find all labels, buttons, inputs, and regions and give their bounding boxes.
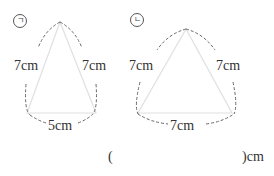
answer-open-paren: ( xyxy=(108,150,113,164)
triangle-1-right-side-label: 7cm xyxy=(82,59,106,73)
triangle-1-left-side-label: 7cm xyxy=(14,59,38,73)
answer-close-paren-unit: )cm xyxy=(242,150,264,164)
triangle-1-base-arc-right xyxy=(78,115,92,123)
triangle-2-base-arc-right xyxy=(206,114,234,124)
triangle-2-base-arc-left xyxy=(138,114,168,124)
triangle-1-base-label: 5cm xyxy=(48,119,72,133)
figure-1-marker: ㄱ xyxy=(13,14,27,28)
triangle-2-left-side-arc xyxy=(157,29,186,50)
triangle-2-right-side-arc xyxy=(186,29,215,50)
triangle-2-right-side-label: 7cm xyxy=(216,59,240,73)
triangle-1-right-side-arc xyxy=(60,22,82,48)
triangle-1-base-arc-left xyxy=(30,115,46,123)
triangle-1-left-side-arc xyxy=(38,22,60,48)
triangle-2-right-lower-arc xyxy=(233,82,236,114)
triangle-2-left-lower-arc xyxy=(136,82,140,114)
triangle-2-base-label: 7cm xyxy=(170,119,194,133)
figure-2-marker: ㄴ xyxy=(130,13,144,27)
triangle-2-left-side-label: 7cm xyxy=(129,59,153,73)
answer-input[interactable] xyxy=(118,150,238,164)
triangle-1-right-lower-arc xyxy=(92,84,97,115)
